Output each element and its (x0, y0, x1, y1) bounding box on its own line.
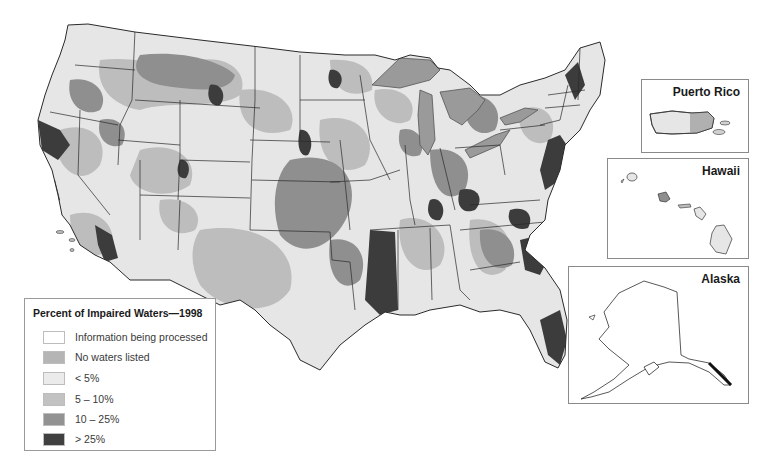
legend-item-5-10: 5 – 10% (43, 391, 114, 407)
legend-swatch (43, 331, 65, 344)
legend-item-10-25: 10 – 25% (43, 411, 119, 427)
hawaii-shape (608, 159, 750, 260)
hawaii-inset: Hawaii (607, 158, 749, 259)
legend-swatch (43, 372, 65, 385)
alaska-shape (569, 267, 750, 405)
puerto-rico-shape (642, 80, 750, 154)
legend-title: Percent of Impaired Waters—1998 (33, 307, 202, 319)
puerto-rico-inset: Puerto Rico (641, 79, 749, 153)
legend-item-no-waters: No waters listed (43, 349, 150, 365)
legend-swatch (43, 393, 65, 406)
alaska-inset: Alaska (568, 266, 749, 404)
impaired-waters-map: Puerto Rico Hawaii Alaska (0, 0, 771, 468)
legend-item-gt25: > 25% (43, 431, 105, 447)
legend-item-lt5: < 5% (43, 370, 99, 386)
legend-swatch (43, 351, 65, 364)
channel-islands (56, 231, 75, 252)
legend: Percent of Impaired Waters—1998 Informat… (24, 298, 216, 451)
legend-item-info-processing: Information being processed (43, 329, 208, 345)
legend-swatch (43, 413, 65, 426)
legend-swatch (43, 433, 65, 446)
